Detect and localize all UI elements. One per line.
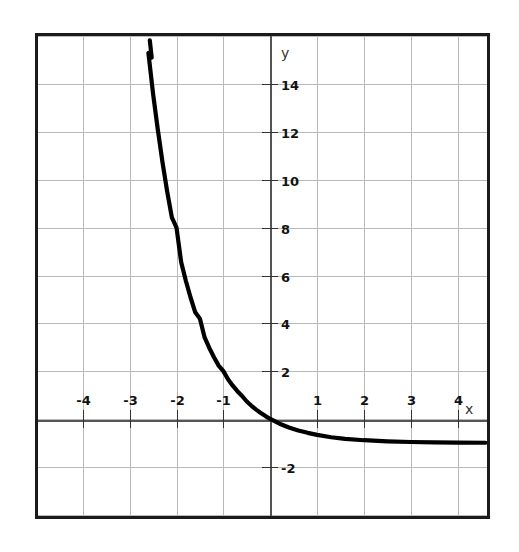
graph-figure: -4-3-2-11234 1412108642-2 y x: [0, 0, 519, 552]
y-tick-label: 12: [281, 126, 299, 141]
x-tick-label: 3: [407, 393, 416, 408]
x-axis-label: x: [465, 401, 473, 417]
x-tick-label: 2: [360, 393, 369, 408]
x-tick-label: 1: [313, 393, 322, 408]
x-tick-label: -2: [170, 393, 184, 408]
x-tick-label: -1: [216, 393, 230, 408]
x-tick-label: -3: [123, 393, 137, 408]
plot-area-background: [36, 34, 488, 517]
coordinate-plane-chart: -4-3-2-11234 1412108642-2 y x: [0, 0, 519, 552]
y-tick-label: -2: [281, 461, 295, 476]
y-tick-label: 14: [281, 78, 299, 93]
y-tick-label: 6: [281, 270, 290, 285]
screenshot-root: -4-3-2-11234 1412108642-2 y x: [0, 0, 519, 552]
y-tick-label: 10: [281, 174, 299, 189]
y-tick-label: 2: [281, 365, 290, 380]
x-tick-label: 4: [454, 393, 463, 408]
y-tick-label: 8: [281, 222, 290, 237]
y-tick-label: 4: [281, 317, 290, 332]
x-tick-label: -4: [76, 393, 90, 408]
y-axis-label: y: [281, 45, 289, 61]
